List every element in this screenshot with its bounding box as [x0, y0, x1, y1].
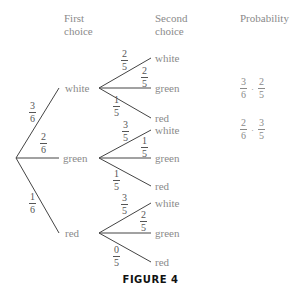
first-choice-green: green: [63, 152, 87, 164]
second-choice-red-red: red: [155, 256, 169, 268]
first-choice-red: red: [65, 227, 79, 239]
header-probability: Probability: [240, 12, 289, 25]
second-choice-green-red: red: [155, 180, 169, 192]
first-choice-white: white: [65, 82, 89, 94]
prob-green-green: 1 5: [141, 136, 148, 159]
prob-green-white: 3 5: [122, 120, 129, 143]
prob-first-red: 1 6: [29, 192, 36, 215]
prob-factor-a: 2 6: [240, 118, 247, 141]
prob-white-red: 1 5: [113, 95, 120, 118]
header-first-choice: First choice: [64, 12, 93, 38]
prob-white-white: 2 5: [121, 49, 128, 72]
prob-factor-b: 3 5: [258, 118, 265, 141]
prob-red-red: 0 5: [113, 245, 120, 268]
second-choice-green-white: white: [155, 124, 179, 136]
prob-white-green: 2 5: [141, 66, 148, 89]
prob-red-green: 2 5: [140, 210, 147, 233]
second-choice-white-white: white: [155, 52, 179, 64]
branch-red-red: [99, 233, 151, 262]
second-choice-red-white: white: [155, 197, 179, 209]
branch-root-red: [16, 158, 59, 233]
second-choice-red-green: green: [155, 227, 179, 239]
header-second-choice-line2: choice: [155, 25, 187, 38]
header-second-choice-line1: Second: [155, 12, 187, 25]
probability-white-white: 3 6 · 2 5: [240, 77, 265, 100]
prob-first-green: 2 6: [40, 132, 47, 155]
prob-red-white: 3 5: [121, 193, 128, 216]
branch-white-red: [99, 88, 151, 118]
prob-factor-a: 3 6: [240, 77, 247, 100]
branch-green-red: [99, 158, 151, 186]
second-choice-white-red: red: [155, 112, 169, 124]
probability-green-white: 2 6 · 3 5: [240, 118, 265, 141]
multiply-dot: ·: [251, 84, 254, 94]
second-choice-green-green: green: [155, 152, 179, 164]
header-second-choice: Second choice: [155, 12, 187, 38]
figure-caption: FIGURE 4: [0, 274, 301, 285]
second-choice-white-green: green: [155, 82, 179, 94]
prob-factor-b: 2 5: [258, 77, 265, 100]
header-first-choice-line1: First: [64, 12, 93, 25]
header-first-choice-line2: choice: [64, 25, 93, 38]
prob-green-red: 1 5: [113, 169, 120, 192]
branch-root-white: [16, 88, 59, 158]
prob-first-white: 3 6: [29, 101, 36, 124]
multiply-dot: ·: [251, 125, 254, 135]
